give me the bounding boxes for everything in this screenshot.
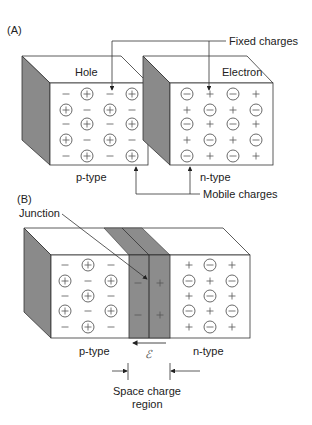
electric-field-symbol: ℰ: [145, 349, 152, 360]
space-charge-label-region: region: [132, 399, 163, 410]
junction-label: Junction: [19, 208, 60, 219]
p-type-label-a: p-type: [76, 172, 107, 183]
p-type-label-b: p-type: [79, 346, 110, 357]
panel-a-label: (A): [7, 25, 22, 36]
mobile-charges-leader: [136, 167, 200, 194]
n-type-label-b: n-type: [193, 346, 224, 357]
electron-label: Electron: [222, 67, 262, 78]
space-charge-label: Space charge: [113, 386, 181, 397]
hole-label: Hole: [75, 67, 98, 78]
n-type-label-a: n-type: [200, 172, 231, 183]
fixed-charges-label: Fixed charges: [229, 36, 298, 47]
mobile-charges-label: Mobile charges: [203, 189, 278, 200]
space-charge-markers: [112, 363, 200, 380]
depletion-region: [129, 255, 170, 338]
panel-b-label: (B): [17, 194, 32, 205]
